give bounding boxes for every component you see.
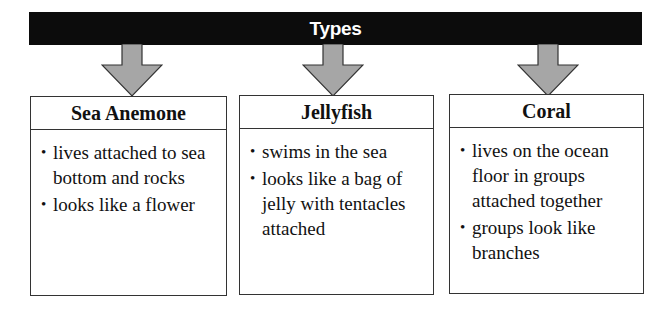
down-arrow-icon	[101, 44, 163, 97]
type-header: Sea Anemone	[31, 97, 226, 130]
down-arrow-icon	[302, 44, 364, 97]
type-box-sea-anemone: Sea Anemone • lives attached to sea bott…	[30, 96, 227, 296]
bullet-icon: •	[460, 215, 472, 265]
type-header: Coral	[450, 95, 643, 128]
bullet-icon: •	[41, 192, 53, 217]
bullet-item: • groups look like branches	[460, 215, 635, 265]
bullet-icon: •	[250, 139, 262, 164]
bullet-item: • lives attached to sea bottom and rocks	[41, 140, 218, 190]
type-box-jellyfish: Jellyfish • swims in the sea • looks lik…	[239, 95, 434, 295]
bullet-item: • lives on the ocean floor in groups att…	[460, 138, 635, 213]
bullet-item: • looks like a flower	[41, 192, 218, 217]
types-title: Types	[309, 18, 361, 40]
types-title-bar: Types	[29, 12, 642, 45]
bullet-icon: •	[41, 140, 53, 190]
bullet-item: • looks like a bag of jelly with tentacl…	[250, 166, 425, 241]
bullet-item: • swims in the sea	[250, 139, 425, 164]
bullet-icon: •	[250, 166, 262, 241]
type-header: Jellyfish	[240, 96, 433, 129]
down-arrow-icon	[517, 44, 579, 97]
type-box-coral: Coral • lives on the ocean floor in grou…	[449, 94, 644, 294]
bullet-icon: •	[460, 138, 472, 213]
